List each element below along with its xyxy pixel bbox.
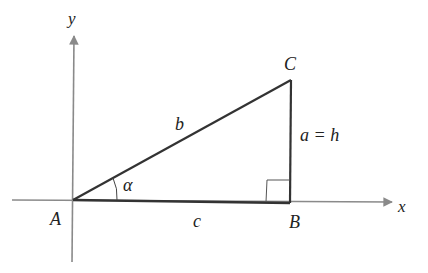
triangle-diagram: y x A B C b c a = h α	[0, 0, 428, 273]
vertex-b-label: B	[289, 212, 300, 232]
vertex-c-label: C	[284, 54, 297, 74]
side-b	[73, 80, 291, 200]
y-axis	[72, 36, 74, 262]
x-axis-label: x	[397, 197, 406, 216]
y-axis-label: y	[66, 9, 76, 28]
vertex-a-label: A	[49, 209, 62, 229]
side-a	[290, 80, 291, 203]
side-b-label: b	[175, 114, 184, 134]
side-c-label: c	[193, 211, 201, 231]
side-a-label: a = h	[300, 125, 339, 145]
angle-alpha-label: α	[123, 175, 133, 195]
angle-arc	[113, 178, 117, 200]
right-angle-marker	[266, 180, 290, 202]
side-c	[73, 200, 290, 203]
